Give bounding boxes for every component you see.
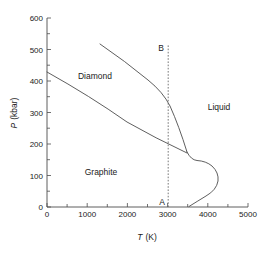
- x-tick-label-4000: 4000: [199, 210, 217, 219]
- y-axis-title-unit: (kbar): [9, 97, 19, 119]
- y-tick-label-400: 400: [30, 77, 44, 86]
- x-tick-label-2000: 2000: [119, 210, 137, 219]
- graphite-diamond-line: [47, 72, 187, 153]
- x-axis-title-symbol: T: [137, 232, 143, 242]
- y-axis-title: P(kbar): [9, 97, 19, 128]
- y-tick-label-200: 200: [30, 140, 44, 149]
- y-tick-label-300: 300: [30, 109, 44, 118]
- y-tick-label-100: 100: [30, 172, 44, 181]
- y-tick-label-600: 600: [30, 14, 44, 23]
- point-label-b: B: [158, 43, 164, 53]
- y-axis-tick-labels: 600 500 400 300 200 100 0: [30, 14, 44, 212]
- region-label-graphite: Graphite: [85, 167, 118, 177]
- x-axis-title: T(K): [137, 232, 157, 242]
- point-label-a: A: [159, 197, 165, 207]
- y-tick-label-0: 0: [39, 203, 44, 212]
- x-tick-label-3000: 3000: [159, 210, 177, 219]
- x-tick-label-0: 0: [45, 210, 50, 219]
- diamond-liquid-boundary: [100, 44, 187, 152]
- carbon-phase-diagram-plot: 600 500 400 300 200 100 0 0 1000 2000 30…: [0, 0, 263, 255]
- x-axis-tick-labels: 0 1000 2000 3000 4000 5000: [45, 210, 258, 219]
- phase-diagram-figure: 600 500 400 300 200 100 0 0 1000 2000 30…: [0, 0, 263, 255]
- region-label-liquid: Liquid: [208, 102, 231, 112]
- y-tick-label-500: 500: [30, 46, 44, 55]
- x-tick-label-5000: 5000: [239, 210, 257, 219]
- y-axis-title-symbol: P: [9, 122, 19, 128]
- region-label-diamond: Diamond: [78, 71, 112, 81]
- x-axis-title-unit: (K): [145, 232, 157, 242]
- x-tick-label-1000: 1000: [78, 210, 96, 219]
- y-axis-major-ticks: [47, 18, 51, 207]
- graphite-liquid-melting-curve: [187, 152, 218, 207]
